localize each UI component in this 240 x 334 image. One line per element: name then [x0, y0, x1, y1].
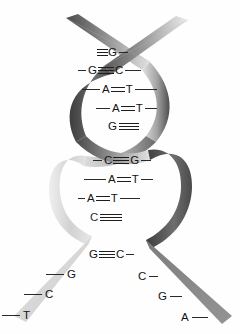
dna-helix-figure: G G C A T A T G [0, 0, 240, 334]
helix-ribbons [0, 0, 240, 334]
